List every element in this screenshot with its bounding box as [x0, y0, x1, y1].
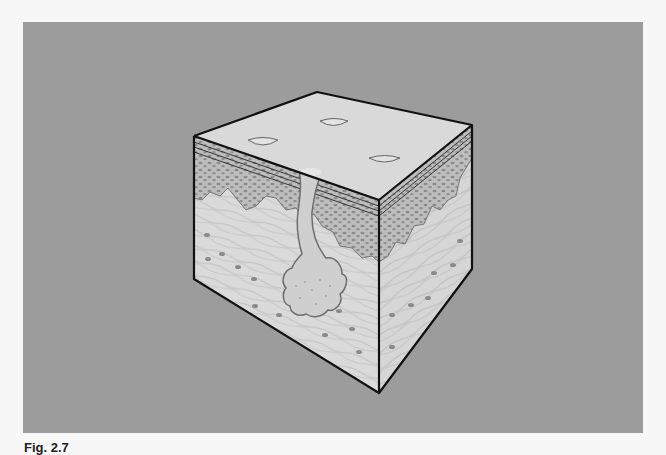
- figure-caption: Fig. 2.7: [24, 441, 79, 455]
- caption-label: Fig. 2.7: [24, 440, 69, 455]
